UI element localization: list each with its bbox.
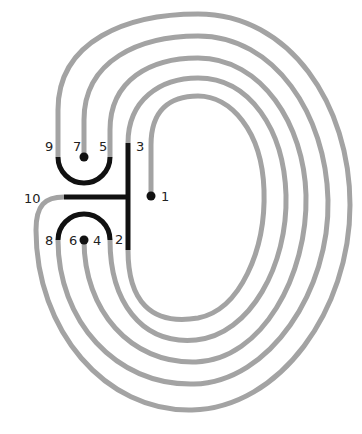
label-8: 8: [45, 233, 53, 248]
label-9: 9: [45, 139, 53, 154]
label-3: 3: [136, 139, 144, 154]
label-4: 4: [93, 233, 101, 248]
labyrinth-diagram: 1 2 3 4 5 6 7 8 9 10: [0, 0, 362, 434]
label-1: 1: [161, 189, 169, 204]
label-7: 7: [73, 139, 81, 154]
circuit-3-to-4: [110, 78, 286, 340]
label-5: 5: [99, 139, 107, 154]
circuit-1-to-2: [128, 96, 264, 319]
label-2: 2: [115, 232, 123, 247]
dot-1: [147, 192, 156, 201]
dot-6: [80, 236, 89, 245]
label-6: 6: [69, 233, 77, 248]
label-10: 10: [24, 191, 41, 206]
